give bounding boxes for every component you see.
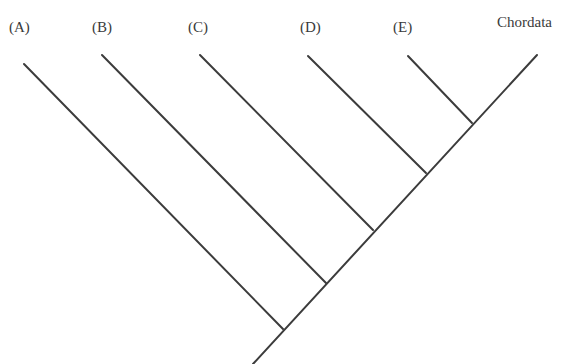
- branch-c: [200, 55, 373, 230]
- branch-b: [102, 55, 326, 283]
- taxon-label-c: (C): [188, 20, 208, 35]
- branch-e: [408, 56, 472, 123]
- branch-a: [24, 64, 283, 329]
- branch-d: [308, 56, 426, 173]
- cladogram-branches: [0, 0, 582, 364]
- taxon-label-a: (A): [9, 20, 30, 35]
- taxon-label-chordata: Chordata: [497, 15, 552, 30]
- taxon-label-e: (E): [393, 20, 412, 35]
- taxon-label-d: (D): [300, 20, 321, 35]
- taxon-label-b: (B): [92, 20, 112, 35]
- main-trunk: [253, 55, 537, 364]
